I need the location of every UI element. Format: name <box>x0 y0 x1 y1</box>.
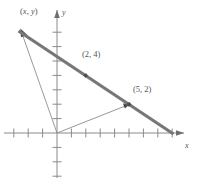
x-axis-label: x <box>184 141 189 150</box>
vector-to-5-2-shaft <box>57 106 127 134</box>
y-axis-arrowhead <box>54 10 60 18</box>
label-point-2-4: (2, 4) <box>82 49 101 59</box>
label-point-xy: (x, y) <box>20 6 38 16</box>
y-axis-group <box>53 10 62 178</box>
figure-canvas: (x, y) (2, 4) (5, 2) x y <box>0 0 203 189</box>
x-axis-group <box>4 129 184 138</box>
vector-to-xy-shaft <box>22 34 57 134</box>
coordinate-plane-figure: (x, y) (2, 4) (5, 2) x y <box>0 0 203 189</box>
x-axis-arrowhead <box>176 130 184 136</box>
label-point-5-2: (5, 2) <box>133 84 152 94</box>
y-axis-label: y <box>61 8 66 17</box>
line-through-points <box>19 31 174 134</box>
vector-to-5-2 <box>57 104 131 134</box>
